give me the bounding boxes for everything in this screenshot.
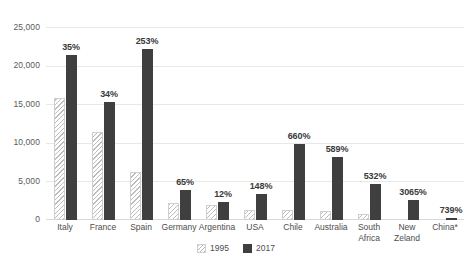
bar-2017[interactable] (256, 194, 267, 220)
legend-swatch-1995-icon (197, 244, 206, 253)
bar-2017[interactable] (180, 190, 191, 220)
bar-2017[interactable] (142, 49, 153, 220)
y-axis-label: 0 (0, 215, 40, 224)
bar-group: 739% (426, 27, 464, 220)
bar-group: 253% (122, 27, 160, 220)
y-axis-label: 25,000 (0, 23, 40, 32)
x-axis-label: France (84, 222, 122, 244)
y-axis-label: 15,000 (0, 100, 40, 109)
bar-2017[interactable] (332, 157, 343, 220)
x-axis-label: USA (236, 222, 274, 244)
x-axis-label: SouthAfrica (350, 222, 388, 244)
bar-columns: 35%34%253%65%12%148%660%589%532%3065%739… (46, 27, 464, 220)
x-axis-label: Spain (122, 222, 160, 244)
bar-value-label: 589% (326, 145, 349, 154)
x-axis-label: Australia (312, 222, 350, 244)
y-axis-label: 10,000 (0, 138, 40, 147)
x-axis-label: Chile (274, 222, 312, 244)
bar-1995[interactable] (206, 205, 217, 220)
bar-pair (236, 27, 274, 220)
bar-group: 34% (84, 27, 122, 220)
bar-value-label: 148% (250, 182, 273, 191)
legend-item-1995[interactable]: 1995 (197, 244, 229, 253)
legend-swatch-2017-icon (243, 244, 252, 253)
bar-group: 12% (198, 27, 236, 220)
bar-2017[interactable] (66, 55, 77, 220)
bar-group: 589% (312, 27, 350, 220)
bar-pair (350, 27, 388, 220)
bar-1995[interactable] (282, 210, 293, 220)
bar-pair (46, 27, 84, 220)
bar-2017[interactable] (408, 200, 419, 220)
bar-2017[interactable] (446, 218, 457, 220)
bar-pair (160, 27, 198, 220)
bar-2017[interactable] (294, 144, 305, 220)
x-axis: ItalyFranceSpainGermanyArgentinaUSAChile… (46, 222, 464, 244)
bar-value-label: 35% (62, 43, 80, 52)
x-axis-label: Italy (46, 222, 84, 244)
bar-1995[interactable] (130, 172, 141, 220)
bar-value-label: 65% (176, 178, 194, 187)
bar-pair (274, 27, 312, 220)
bar-pair (84, 27, 122, 220)
bar-1995[interactable] (168, 203, 179, 220)
bar-1995[interactable] (358, 214, 369, 220)
bar-group: 532% (350, 27, 388, 220)
bar-1995[interactable] (92, 132, 103, 220)
bar-1995[interactable] (320, 211, 331, 220)
y-axis-label: 5,000 (0, 177, 40, 186)
bar-group: 65% (160, 27, 198, 220)
bar-1995[interactable] (54, 98, 65, 220)
x-axis-label: Argentina (198, 222, 236, 244)
bar-chart: 25,000 20,000 15,000 10,000 5,000 0 35%3… (0, 0, 472, 265)
bar-value-label: 12% (214, 190, 232, 199)
bar-pair (426, 27, 464, 220)
bar-2017[interactable] (370, 184, 381, 220)
x-axis-label: NewZeland (388, 222, 426, 244)
bar-value-label: 532% (364, 172, 387, 181)
bar-1995[interactable] (244, 210, 255, 220)
y-axis-label: 20,000 (0, 61, 40, 70)
bar-group: 3065% (388, 27, 426, 220)
bar-value-label: 253% (136, 37, 159, 46)
bar-value-label: 739% (440, 206, 463, 215)
legend: 1995 2017 (0, 244, 472, 253)
bar-value-label: 3065% (399, 188, 427, 197)
x-axis-label: Germany (160, 222, 198, 244)
bar-value-label: 660% (288, 132, 311, 141)
bar-pair (122, 27, 160, 220)
bar-2017[interactable] (218, 202, 229, 220)
legend-label: 2017 (256, 244, 275, 253)
bar-group: 660% (274, 27, 312, 220)
legend-item-2017[interactable]: 2017 (243, 244, 275, 253)
x-axis-label: China* (426, 222, 464, 244)
bar-2017[interactable] (104, 102, 115, 221)
bar-value-label: 34% (100, 90, 118, 99)
legend-label: 1995 (210, 244, 229, 253)
bar-group: 35% (46, 27, 84, 220)
bar-group: 148% (236, 27, 274, 220)
bar-pair (312, 27, 350, 220)
